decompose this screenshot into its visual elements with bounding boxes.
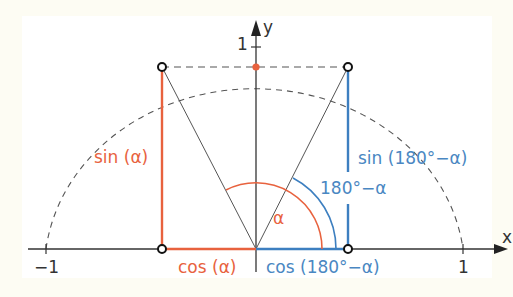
sin-alpha-label: sin (α) xyxy=(94,149,148,166)
cos-180-minus-alpha-label: cos (180°−α) xyxy=(266,259,380,276)
radius-alpha xyxy=(162,67,256,249)
sin-180-minus-alpha-label: sin (180°−α) xyxy=(358,150,467,167)
angle-180-minus-alpha-label: 180°−α xyxy=(320,180,386,197)
radius-180-minus-alpha xyxy=(256,67,348,249)
y-axis-arrow-icon xyxy=(251,20,261,36)
y-tick-1-label: 1 xyxy=(237,36,248,53)
cos-alpha-label: cos (α) xyxy=(178,259,236,276)
x-tick-neg1-label: −1 xyxy=(34,259,59,276)
unit-circle-diagram: 1 y x −1 1 sin (α) cos (α) α sin (180°−α… xyxy=(0,0,513,297)
x-tick-1-label: 1 xyxy=(458,259,469,276)
y-axis-label: y xyxy=(263,19,273,36)
point-cos-180 xyxy=(344,245,352,253)
alpha-label: α xyxy=(273,210,284,227)
point-180-minus-alpha xyxy=(344,63,352,71)
point-sin-on-y-axis xyxy=(252,63,259,70)
point-cos-alpha xyxy=(158,245,166,253)
x-axis-label: x xyxy=(502,229,512,246)
unit-semicircle xyxy=(46,89,463,249)
point-alpha xyxy=(158,63,166,71)
